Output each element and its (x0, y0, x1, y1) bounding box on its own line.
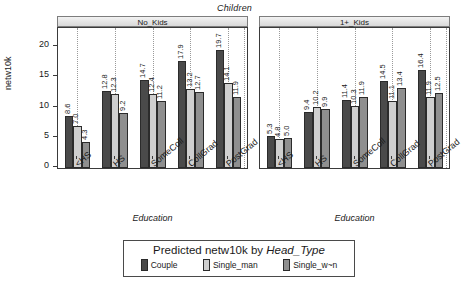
y-tick-label: 15 (39, 69, 49, 79)
y-tick-label: 0 (44, 160, 49, 170)
legend-label: Couple (151, 260, 178, 270)
legend-label: Single_man (213, 260, 258, 270)
bar-value-label: 10.2 (311, 90, 320, 105)
bar-value-label: 14.7 (138, 63, 147, 78)
bar-value-label: 4.3 (80, 130, 89, 140)
bar (342, 100, 351, 168)
legend-swatch (283, 259, 290, 271)
panel-strip-1plus-kids: 1+_Kids (259, 16, 450, 27)
plot-area-no-kids: 8.67.04.312.812.39.214.712.411.217.913.2… (57, 27, 248, 169)
bar-value-label: 11.9 (231, 81, 240, 95)
bar-value-label: 13.4 (395, 71, 404, 86)
bar-value-label: 12.7 (193, 75, 202, 90)
bar-group: 12.812.39.2 (96, 28, 134, 168)
bar-group: 8.67.04.3 (58, 28, 96, 168)
bar-value-label: 4.8 (273, 127, 282, 137)
bar-group: 5.34.85.0 (260, 28, 298, 168)
legend-swatch (141, 259, 148, 271)
x-axis-1plus-kids: <HSHSSomeCollCollGradPostGrad (259, 159, 450, 209)
bar-value-label: 12.3 (109, 78, 118, 93)
legend-title-italic: Head_Type (266, 244, 325, 256)
bar-value-label: 11.4 (340, 84, 349, 98)
bar-value-label: 12.5 (433, 76, 442, 91)
y-tick-label: 5 (44, 130, 49, 140)
y-tick-label: 10 (39, 100, 49, 110)
x-axis-no-kids: <HSHSSomeCollCollGradPostGrad (57, 159, 248, 209)
bar-value-label: 5.0 (282, 126, 291, 136)
legend-item[interactable]: Single_w~n (283, 259, 337, 271)
legend-item[interactable]: Couple (141, 259, 178, 271)
bar-value-label: 14.5 (378, 64, 387, 79)
bar (140, 80, 149, 168)
lattice-barchart: Children netw10k 05101520 No_Kids 8.67.0… (0, 0, 469, 291)
x-axis-title-1plus-kids: Education (259, 213, 450, 223)
x-axis-title-no-kids: Education (57, 213, 248, 223)
legend-label: Single_w~n (293, 260, 337, 270)
legend: Predicted netw10k by Head_Type CoupleSin… (123, 240, 355, 277)
legend-title-plain: Predicted netw10k by (153, 244, 266, 256)
panel-strip-no-kids: No_Kids (57, 16, 248, 27)
bar (102, 91, 111, 168)
bar-group: 9.410.29.9 (298, 28, 336, 168)
bar-value-label: 9.2 (118, 100, 127, 110)
bar-value-label: 19.7 (214, 33, 223, 48)
legend-item[interactable]: Single_man (203, 259, 258, 271)
bar-value-label: 9.9 (320, 96, 329, 106)
bar-value-label: 11.1 (387, 85, 396, 99)
bar-value-label: 17.9 (176, 44, 185, 59)
bar-value-label: 7.0 (71, 114, 80, 124)
bar-value-label: 14.1 (222, 67, 231, 82)
bar-value-label: 16.4 (416, 53, 425, 68)
legend-swatch (203, 259, 210, 271)
legend-title: Predicted netw10k by Head_Type (124, 244, 354, 256)
y-tick-label: 20 (39, 39, 49, 49)
plot-area-1plus-kids: 5.34.85.09.410.29.911.410.311.914.511.11… (259, 27, 450, 169)
bar-value-label: 11.2 (155, 85, 164, 99)
legend-items: CoupleSingle_manSingle_w~n (124, 259, 354, 271)
bar-value-label: 11.9 (357, 81, 366, 95)
y-axis: netw10k 05101520 (0, 16, 57, 170)
y-axis-title: netw10k (3, 56, 13, 90)
outer-strip-label: Children (0, 3, 469, 13)
